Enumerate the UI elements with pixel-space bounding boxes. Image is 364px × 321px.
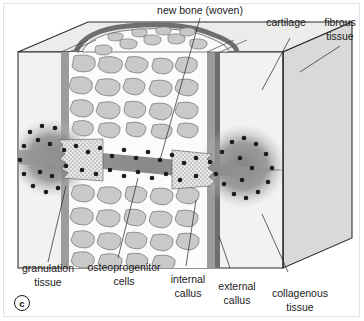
panel-letter-text: c — [19, 298, 24, 309]
label-collagenous-2: tissue — [286, 301, 314, 313]
panel-letter-badge: c — [15, 296, 30, 311]
label-collagenous-1: collagenous — [272, 287, 328, 299]
label-internal-callus-2: callus — [175, 287, 202, 299]
label-granulation-2: tissue — [34, 276, 62, 288]
block-right-face — [283, 22, 352, 268]
label-new-bone: new bone (woven) — [157, 4, 243, 16]
figure-panel-c: new bone (woven) cartilage fibrous tissu… — [0, 0, 364, 321]
label-cartilage: cartilage — [266, 16, 306, 28]
label-external-callus-2: callus — [224, 294, 251, 306]
label-fibrous-tissue-2: tissue — [326, 30, 354, 42]
bone-healing-diagram: new bone (woven) cartilage fibrous tissu… — [0, 0, 364, 321]
label-fibrous-tissue-1: fibrous — [324, 16, 356, 28]
label-granulation-1: granulation — [22, 262, 74, 274]
label-osteoprogenitor-2: cells — [113, 275, 134, 287]
woven-bone-wedge-right — [172, 150, 215, 189]
bone-block-3d — [10, 22, 352, 271]
label-external-callus-1: external — [218, 280, 255, 292]
label-osteoprogenitor-1: osteoprogenitor — [88, 261, 161, 273]
label-internal-callus-1: internal — [171, 273, 205, 285]
